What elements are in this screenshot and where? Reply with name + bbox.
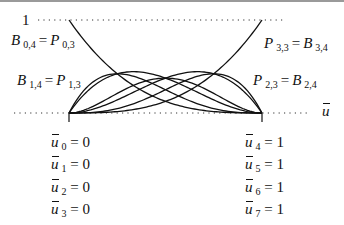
knot-u0-symbol: u	[51, 135, 59, 150]
knot-u7-value: = 1	[264, 201, 284, 217]
knot-u3: u3 = 0	[51, 202, 90, 219]
label-p13-subscript: 1,3	[68, 79, 81, 90]
label-b34-subscript: 3,4	[315, 42, 328, 53]
knot-u5-subscript: 5	[256, 163, 261, 174]
label-p33-equals: =	[292, 35, 300, 51]
knot-u2-symbol: u	[51, 180, 59, 195]
label-b04-symbol: B	[11, 32, 20, 48]
label-p23-subscript: 2,3	[265, 79, 278, 90]
knot-u6-subscript: 6	[256, 186, 261, 197]
knot-u7-subscript: 7	[256, 208, 261, 219]
label-p23-symbol: P	[253, 72, 262, 88]
label-p33-b34: P3,3=B3,4	[264, 36, 328, 53]
label-p23-equals: =	[281, 72, 289, 88]
label-p33-symbol: P	[264, 35, 273, 51]
knot-u3-subscript: 3	[62, 208, 67, 219]
knot-u2-value: = 0	[70, 179, 90, 195]
knot-u6-symbol: u	[245, 180, 253, 195]
label-b14-equals: =	[45, 72, 53, 88]
axis-u-symbol: u	[322, 104, 330, 119]
label-b14-symbol: B	[17, 72, 26, 88]
knot-u2: u2 = 0	[51, 180, 90, 197]
label-b24-subscript: 2,4	[304, 79, 317, 90]
knot-u1-subscript: 1	[62, 163, 67, 174]
knot-u0: u0 = 0	[51, 135, 90, 152]
label-b04-subscript: 0,4	[23, 39, 36, 50]
label-b14-subscript: 1,4	[29, 79, 42, 90]
label-b24-symbol: B	[292, 72, 301, 88]
label-p13-symbol: P	[56, 72, 65, 88]
knot-u4-value: = 1	[264, 134, 284, 150]
knot-u6-value: = 1	[264, 179, 284, 195]
knot-u4-subscript: 4	[256, 141, 261, 152]
knot-u4: u4 = 1	[245, 135, 284, 152]
knot-u6: u6 = 1	[245, 180, 284, 197]
knot-u0-subscript: 0	[62, 141, 67, 152]
knot-u5: u5 = 1	[245, 157, 284, 174]
knot-u1: u1 = 0	[51, 157, 90, 174]
knot-u4-symbol: u	[245, 135, 253, 150]
knot-u3-symbol: u	[51, 202, 59, 217]
knot-u2-subscript: 2	[62, 186, 67, 197]
y-one-label: 1	[22, 13, 30, 28]
label-p03-symbol: P	[50, 32, 59, 48]
label-p03-subscript: 0,3	[62, 39, 75, 50]
knot-u7: u7 = 1	[245, 202, 284, 219]
label-b04-equals: =	[39, 32, 47, 48]
label-b34-symbol: B	[303, 35, 312, 51]
knot-u1-value: = 0	[70, 156, 90, 172]
basis-curves	[69, 20, 262, 113]
knot-u0-value: = 0	[70, 134, 90, 150]
label-p33-subscript: 3,3	[276, 42, 289, 53]
knot-u5-value: = 1	[264, 156, 284, 172]
label-b04-p03: B0,4=P0,3	[11, 33, 75, 50]
curve-b33	[69, 20, 262, 113]
axis-label-u: u	[322, 104, 330, 119]
curve-b03	[69, 20, 262, 113]
knot-u3-value: = 0	[70, 201, 90, 217]
knot-u1-symbol: u	[51, 157, 59, 172]
knot-u7-symbol: u	[245, 202, 253, 217]
label-b14-p13: B1,4=P1,3	[17, 73, 81, 90]
label-p23-b24: P2,3=B2,4	[253, 73, 317, 90]
knot-u5-symbol: u	[245, 157, 253, 172]
